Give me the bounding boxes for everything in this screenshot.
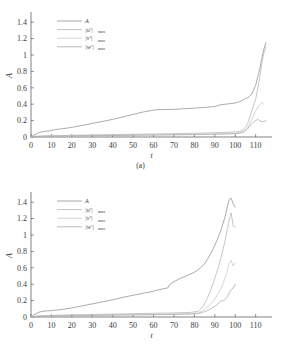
chart-panel-b: 00.20.40.60.811.21.401020304050607080901… <box>0 180 281 360</box>
legend-label-subscript: max <box>98 218 106 223</box>
x-axis-ticks: 0102030405060708090100110 <box>29 134 262 150</box>
y-tick-label: 1.2 <box>17 34 27 43</box>
y-tick-label: 0.8 <box>17 67 27 76</box>
x-tick-label: 80 <box>190 321 198 330</box>
figure-container: 00.20.40.60.811.21.401020304050607080901… <box>0 0 281 360</box>
x-tick-label: 90 <box>211 141 219 150</box>
x-tick-label: 40 <box>109 141 117 150</box>
legend-label: A <box>84 17 89 24</box>
chart-panel-a: 00.20.40.60.811.21.401020304050607080901… <box>0 0 281 180</box>
data-curves <box>31 43 266 137</box>
legend-label-subscript: max <box>98 46 106 51</box>
chart-b-svg: 00.20.40.60.811.21.401020304050607080901… <box>0 180 281 360</box>
x-axis-ticks: 0102030405060708090100110 <box>29 314 262 330</box>
x-tick-label: 70 <box>170 141 178 150</box>
legend-label: A <box>84 197 89 204</box>
x-axis-title: t <box>150 151 153 160</box>
series-line <box>31 43 266 137</box>
legend-label: |w'| <box>85 223 94 230</box>
data-curves <box>31 198 235 317</box>
y-tick-label: 1 <box>23 231 27 240</box>
legend-label-subscript: max <box>98 29 106 34</box>
legend-label: |u'| <box>85 206 93 213</box>
x-tick-label: 90 <box>211 321 219 330</box>
series-line <box>31 47 266 137</box>
y-tick-label: 0.6 <box>17 264 27 273</box>
y-tick-label: 0 <box>23 133 27 142</box>
y-tick-label: 0.4 <box>17 100 27 109</box>
y-tick-label: 0 <box>23 313 27 322</box>
x-tick-label: 30 <box>88 321 96 330</box>
legend-label-subscript: max <box>98 209 106 214</box>
y-axis-title: A <box>5 73 14 79</box>
y-tick-label: 0.2 <box>17 116 27 125</box>
x-tick-label: 100 <box>229 141 241 150</box>
x-tick-label: 80 <box>190 141 198 150</box>
axes <box>31 12 272 137</box>
series-line <box>31 213 235 317</box>
x-tick-label: 60 <box>150 321 158 330</box>
x-tick-label: 110 <box>250 321 262 330</box>
y-axis-ticks: 00.20.40.60.811.21.4 <box>17 198 34 322</box>
x-tick-label: 50 <box>129 141 137 150</box>
x-tick-label: 0 <box>29 141 33 150</box>
series-line <box>31 198 235 317</box>
chart-legend: A|u'|max|v'|max|w'|max <box>57 197 106 231</box>
legend-label: |w'| <box>85 43 94 50</box>
legend-label-subscript: max <box>98 38 106 43</box>
x-tick-label: 10 <box>47 141 55 150</box>
y-tick-label: 0.4 <box>17 280 27 289</box>
chart-a-svg: 00.20.40.60.811.21.401020304050607080901… <box>0 0 281 180</box>
axes <box>31 192 272 317</box>
x-tick-label: 110 <box>250 141 262 150</box>
x-tick-label: 60 <box>150 141 158 150</box>
legend-label: |v'| <box>85 34 93 41</box>
x-axis-title: t <box>150 331 153 340</box>
y-tick-label: 0.2 <box>17 296 27 305</box>
legend-label: |u'| <box>85 26 93 33</box>
x-tick-label: 50 <box>129 321 137 330</box>
y-tick-label: 1.2 <box>17 214 27 223</box>
x-tick-label: 20 <box>68 321 76 330</box>
y-tick-label: 1.4 <box>17 18 27 27</box>
x-tick-label: 10 <box>47 321 55 330</box>
y-tick-label: 0.6 <box>17 84 27 93</box>
panel-a-caption: (a) <box>0 161 281 170</box>
x-tick-label: 30 <box>88 141 96 150</box>
legend-label: |v'| <box>85 214 93 221</box>
x-tick-label: 40 <box>109 321 117 330</box>
y-tick-label: 1.4 <box>17 198 27 207</box>
y-axis-title: A <box>5 253 14 259</box>
legend-label-subscript: max <box>98 226 106 231</box>
x-tick-label: 0 <box>29 321 33 330</box>
chart-legend: A|u'|max|v'|max|w'|max <box>57 17 106 51</box>
x-tick-label: 20 <box>68 141 76 150</box>
y-axis-ticks: 00.20.40.60.811.21.4 <box>17 18 34 142</box>
y-tick-label: 1 <box>23 51 27 60</box>
series-line <box>31 260 235 317</box>
series-line <box>31 103 264 137</box>
y-tick-label: 0.8 <box>17 247 27 256</box>
x-tick-label: 70 <box>170 321 178 330</box>
x-tick-label: 100 <box>229 321 241 330</box>
series-line <box>31 284 235 317</box>
